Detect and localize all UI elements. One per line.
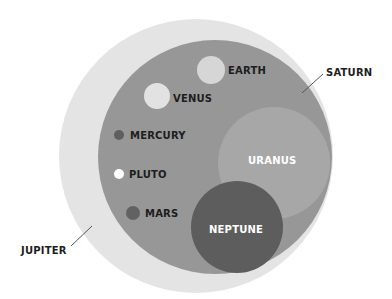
mercury-circle — [114, 130, 124, 140]
jupiter-label: JUPITER — [20, 245, 67, 256]
saturn-label: SATURN — [326, 67, 372, 78]
earth-label: EARTH — [228, 65, 266, 76]
venus-label: VENUS — [173, 93, 212, 104]
venus-circle — [144, 83, 170, 109]
neptune-label: NEPTUNE — [209, 224, 263, 235]
mercury-label: MERCURY — [130, 130, 186, 141]
mars-label: MARS — [145, 208, 178, 219]
uranus-label: URANUS — [248, 155, 296, 166]
pluto-label: PLUTO — [129, 169, 167, 180]
pluto-circle — [114, 169, 124, 179]
mars-circle — [126, 206, 140, 220]
planet-size-diagram: EARTH VENUS MERCURY PLUTO MARS URANUS NE… — [0, 0, 392, 299]
earth-circle — [197, 56, 225, 84]
